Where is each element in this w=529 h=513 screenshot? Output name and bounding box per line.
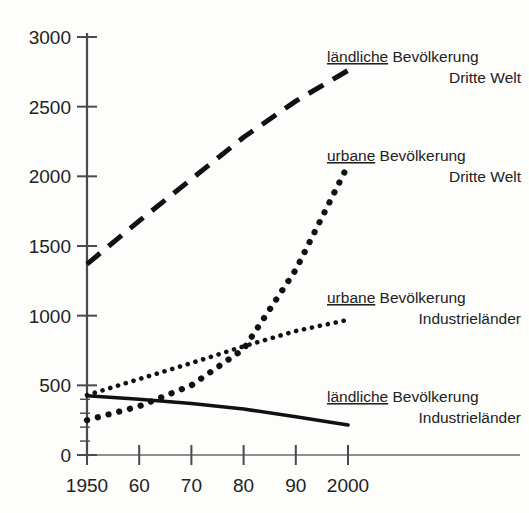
legend-label-line2-urbane-bevoelkerung-industrielaender: Industrieländer xyxy=(418,310,521,327)
chart-canvas: 050010001500200025003000 195060708090200… xyxy=(0,0,529,513)
y-tick-label-3000: 3000 xyxy=(29,27,71,48)
y-tick-label-500: 500 xyxy=(39,375,71,396)
y-axis-tick-labels: 050010001500200025003000 xyxy=(29,27,71,466)
legend-group: ländliche BevölkerungDritte Welturbane B… xyxy=(327,48,522,426)
x-tick-label-60: 60 xyxy=(129,475,150,496)
legend-rest-urbane-bevoelkerung-dritte-welt: Bevölkerung xyxy=(375,147,465,164)
legend-label-line1-laendliche-bevoelkerung-industrielaender: ländliche Bevölkerung xyxy=(327,388,479,405)
x-tick-label-70: 70 xyxy=(181,475,202,496)
y-tick-label-2000: 2000 xyxy=(29,166,71,187)
series-line-urbane-bevoelkerung-industrielaender xyxy=(87,320,348,395)
x-tick-label-2000: 2000 xyxy=(327,475,369,496)
legend-rest-laendliche-bevoelkerung-industrielaender: Bevölkerung xyxy=(388,388,478,405)
series-line-laendliche-bevoelkerung-industrielaender xyxy=(87,396,348,425)
y-tick-label-0: 0 xyxy=(60,445,71,466)
population-line-chart: 050010001500200025003000 195060708090200… xyxy=(0,0,529,513)
y-tick-label-1000: 1000 xyxy=(29,306,71,327)
x-tick-label-1950: 1950 xyxy=(66,475,108,496)
legend-underlined-term-urbane-bevoelkerung-dritte-welt: urbane xyxy=(327,147,375,164)
legend-underlined-term-urbane-bevoelkerung-industrielaender: urbane xyxy=(327,289,375,306)
legend-underlined-term-laendliche-bevoelkerung-dritte-welt: ländliche xyxy=(327,48,388,65)
x-axis-tick-labels: 1950607080902000 xyxy=(66,475,369,496)
legend-label-line2-urbane-bevoelkerung-dritte-welt: Dritte Welt xyxy=(449,168,522,185)
x-tick-label-90: 90 xyxy=(285,475,306,496)
x-tick-label-80: 80 xyxy=(233,475,254,496)
series-line-laendliche-bevoelkerung-dritte-welt xyxy=(87,70,348,264)
legend-label-line1-laendliche-bevoelkerung-dritte-welt: ländliche Bevölkerung xyxy=(327,48,479,65)
legend-underlined-term-laendliche-bevoelkerung-industrielaender: ländliche xyxy=(327,388,388,405)
legend-rest-laendliche-bevoelkerung-dritte-welt: Bevölkerung xyxy=(388,48,478,65)
legend-rest-urbane-bevoelkerung-industrielaender: Bevölkerung xyxy=(375,289,465,306)
y-tick-label-2500: 2500 xyxy=(29,97,71,118)
y-tick-label-1500: 1500 xyxy=(29,236,71,257)
legend-label-line2-laendliche-bevoelkerung-dritte-welt: Dritte Welt xyxy=(449,69,522,86)
legend-label-line2-laendliche-bevoelkerung-industrielaender: Industrieländer xyxy=(418,409,521,426)
legend-label-line1-urbane-bevoelkerung-dritte-welt: urbane Bevölkerung xyxy=(327,147,466,164)
legend-label-line1-urbane-bevoelkerung-industrielaender: urbane Bevölkerung xyxy=(327,289,466,306)
data-series-group xyxy=(87,70,348,425)
